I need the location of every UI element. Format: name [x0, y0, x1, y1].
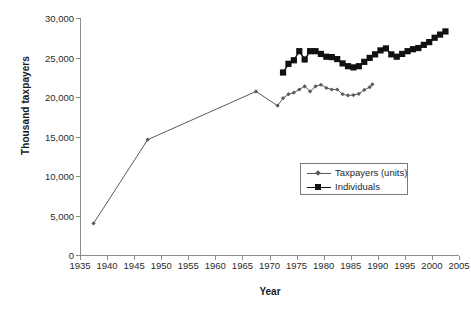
- data-point-diamond: [319, 83, 323, 87]
- data-point-square: [377, 47, 383, 53]
- data-point-square: [280, 69, 286, 75]
- data-point-square: [421, 42, 427, 48]
- data-point-square: [410, 46, 416, 52]
- data-point-square: [442, 28, 448, 34]
- chart-legend[interactable]: Taxpayers (units) Individuals: [300, 163, 408, 195]
- legend-label-individuals: Individuals: [335, 182, 380, 192]
- data-point-square: [329, 54, 335, 60]
- legend-item-individuals[interactable]: Individuals: [307, 180, 380, 194]
- data-point-square: [372, 51, 378, 57]
- data-point-square: [426, 39, 432, 45]
- data-point-square: [307, 48, 313, 54]
- data-point-square: [302, 56, 308, 62]
- data-point-square: [318, 51, 324, 57]
- data-point-square: [367, 55, 373, 61]
- chart-figure: Thousand taxpayers 05,00010,00015,00020,…: [0, 0, 471, 310]
- data-point-diamond: [297, 87, 301, 91]
- data-point-square: [356, 63, 362, 69]
- data-point-square: [383, 45, 389, 51]
- data-point-square: [404, 48, 410, 54]
- data-point-square: [339, 60, 345, 66]
- data-point-square: [394, 54, 400, 60]
- legend-item-taxpayers[interactable]: Taxpayers (units): [307, 166, 407, 180]
- series-individuals: [280, 28, 449, 75]
- legend-label-taxpayers: Taxpayers (units): [335, 168, 407, 178]
- data-point-square: [437, 31, 443, 37]
- legend-swatch-individuals: [307, 182, 331, 192]
- data-point-diamond: [351, 93, 355, 97]
- data-point-square: [312, 48, 318, 54]
- data-point-square: [350, 64, 356, 70]
- data-point-square: [415, 45, 421, 51]
- plot-area: [0, 0, 471, 310]
- data-point-diamond: [346, 93, 350, 97]
- data-point-square: [345, 63, 351, 69]
- legend-swatch-taxpayers: [307, 168, 331, 178]
- data-point-square: [285, 61, 291, 67]
- series-taxpayers: [91, 82, 374, 225]
- data-point-square: [291, 57, 297, 63]
- data-point-diamond: [324, 86, 328, 90]
- x-axis-title: Year: [80, 286, 460, 297]
- data-point-square: [432, 35, 438, 41]
- data-point-square: [323, 54, 329, 60]
- data-point-square: [388, 51, 394, 57]
- square-marker-icon: [315, 184, 321, 190]
- series-line: [94, 84, 373, 223]
- data-point-square: [361, 59, 367, 65]
- data-point-square: [296, 48, 302, 54]
- data-point-diamond: [292, 91, 296, 95]
- data-point-diamond: [330, 87, 334, 91]
- diamond-marker-icon: [315, 170, 321, 176]
- data-point-square: [334, 56, 340, 62]
- data-point-square: [399, 51, 405, 57]
